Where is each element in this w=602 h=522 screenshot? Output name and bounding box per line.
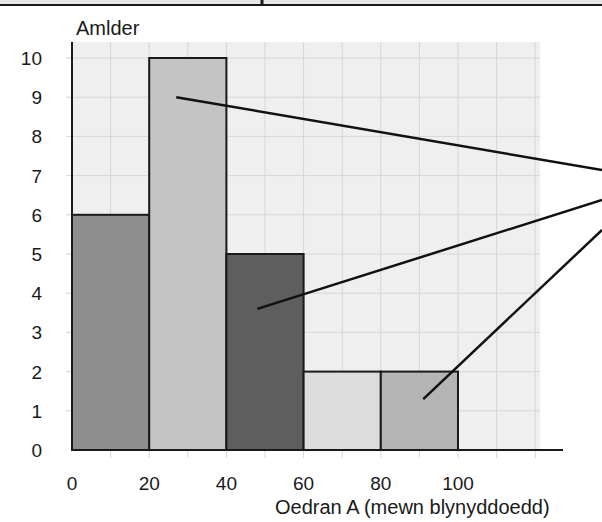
x-tick-label: 20	[139, 473, 160, 494]
y-tick-label: 10	[21, 48, 42, 69]
y-tick-label: 0	[31, 440, 42, 461]
y-tick-label: 5	[31, 244, 42, 265]
y-tick-label: 3	[31, 322, 42, 343]
x-tick-label: 40	[216, 473, 237, 494]
histogram-bar	[304, 372, 381, 450]
histogram-chart: 012345678910020406080100 Amlder Oedran A…	[0, 0, 602, 522]
histogram-bar	[381, 372, 458, 450]
y-tick-label: 2	[31, 362, 42, 383]
histogram-bar	[149, 58, 226, 450]
y-tick-label: 8	[31, 126, 42, 147]
histogram-bar	[226, 254, 303, 450]
x-tick-label: 60	[293, 473, 314, 494]
y-tick-label: 4	[31, 283, 42, 304]
x-tick-label: 100	[442, 473, 474, 494]
histogram-bar	[72, 215, 149, 450]
y-tick-label: 1	[31, 401, 42, 422]
x-axis-label: Oedran A (mewn blynyddoedd)	[275, 496, 550, 518]
y-axis-label: Amlder	[76, 17, 140, 39]
y-tick-label: 6	[31, 205, 42, 226]
x-tick-label: 80	[370, 473, 391, 494]
x-tick-label: 0	[67, 473, 78, 494]
y-tick-label: 9	[31, 87, 42, 108]
y-tick-label: 7	[31, 166, 42, 187]
top-frame	[0, 0, 602, 6]
